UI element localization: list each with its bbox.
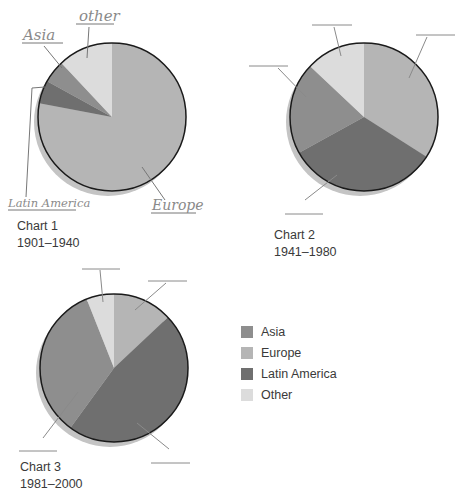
- handwritten-label-europe: Europe: [151, 197, 204, 213]
- chart-1-title: Chart 1: [17, 218, 80, 235]
- legend-swatch-asia: [241, 326, 253, 338]
- legend-swatch-europe: [241, 347, 253, 359]
- chart-2-period: 1941–1980: [274, 244, 337, 261]
- legend-label-asia: Asia: [261, 325, 285, 339]
- chart-2-title: Chart 2: [274, 227, 337, 244]
- chart-3-title: Chart 3: [20, 459, 83, 476]
- legend-item-latin-america: Latin America: [241, 363, 337, 384]
- legend: Asia Europe Latin America Other: [241, 321, 337, 405]
- leader-line-asia: [44, 46, 62, 68]
- chart-3-period: 1981–2000: [20, 476, 83, 493]
- legend-label-europe: Europe: [261, 346, 301, 360]
- legend-swatch-latin-america: [241, 368, 253, 380]
- legend-item-europe: Europe: [241, 342, 337, 363]
- legend-item-other: Other: [241, 384, 337, 405]
- chart-2-caption: Chart 2 1941–1980: [274, 227, 337, 261]
- pie-chart-2: [286, 43, 438, 196]
- legend-swatch-other: [241, 389, 253, 401]
- chart-1-period: 1901–1940: [17, 235, 80, 252]
- legend-item-asia: Asia: [241, 321, 337, 342]
- handwritten-label-asia: Asia: [21, 26, 55, 44]
- legend-label-other: Other: [261, 388, 292, 402]
- chart-1-caption: Chart 1 1901–1940: [17, 218, 80, 252]
- pie-chart-1: [34, 43, 186, 196]
- handwritten-label-latin-america: Latin America: [7, 196, 90, 210]
- pie-chart-3: [36, 294, 188, 447]
- legend-label-latin-america: Latin America: [261, 367, 337, 381]
- chart-3-caption: Chart 3 1981–2000: [20, 459, 83, 493]
- handwritten-label-other: other: [79, 7, 121, 25]
